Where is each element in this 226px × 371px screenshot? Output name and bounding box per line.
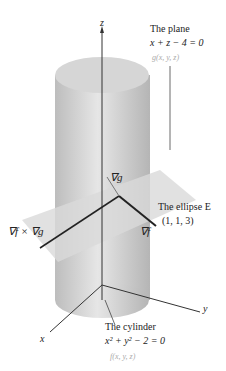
grad-g-label: ∇g (110, 172, 123, 183)
z-axis-label: z (100, 18, 104, 28)
cross-product-label: ∇f × ∇g (8, 226, 43, 237)
grad-f-label: ∇f (140, 226, 150, 237)
plane-title: The plane (150, 24, 190, 34)
plane-function: g(x, y, z) (152, 54, 179, 62)
diagram-canvas (0, 0, 226, 371)
x-axis-label: x (40, 334, 44, 344)
cylinder-title: The cylinder (105, 322, 156, 332)
y-axis-label: y (203, 304, 207, 314)
point-label: (1, 1, 3) (162, 216, 194, 226)
cylinder-equation: x² + y² − 2 = 0 (105, 336, 165, 346)
plane-equation: x + z − 4 = 0 (150, 38, 204, 48)
ellipse-label: The ellipse E (158, 202, 211, 212)
cylinder-function: f(x, y, z) (110, 353, 135, 361)
